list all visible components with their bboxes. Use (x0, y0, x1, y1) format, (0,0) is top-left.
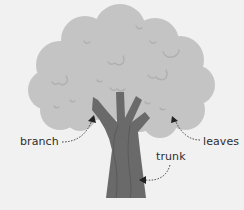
leaves-label: leaves (203, 136, 239, 147)
tree-illustration (0, 0, 244, 210)
branch-label: branch (20, 136, 59, 147)
trunk-label: trunk (156, 151, 186, 162)
tree-diagram: branch leaves trunk (0, 0, 244, 210)
trunk-arrow-line (145, 165, 170, 180)
